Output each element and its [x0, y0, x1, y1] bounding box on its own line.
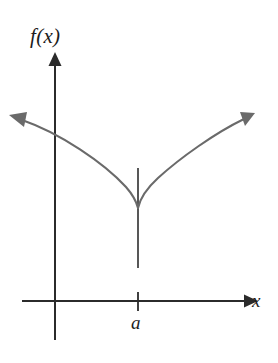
- function-graph-figure: f(x) x a: [0, 0, 278, 363]
- arrow-up-icon: [49, 52, 62, 66]
- curve-right-branch: [138, 119, 244, 208]
- graph-canvas: [0, 0, 278, 363]
- curve-left-branch: [22, 120, 138, 208]
- tick-label-a: a: [131, 312, 141, 334]
- x-axis-label: x: [252, 290, 260, 312]
- y-axis-label: f(x): [30, 24, 60, 49]
- arrow-up-left-icon: [9, 112, 27, 127]
